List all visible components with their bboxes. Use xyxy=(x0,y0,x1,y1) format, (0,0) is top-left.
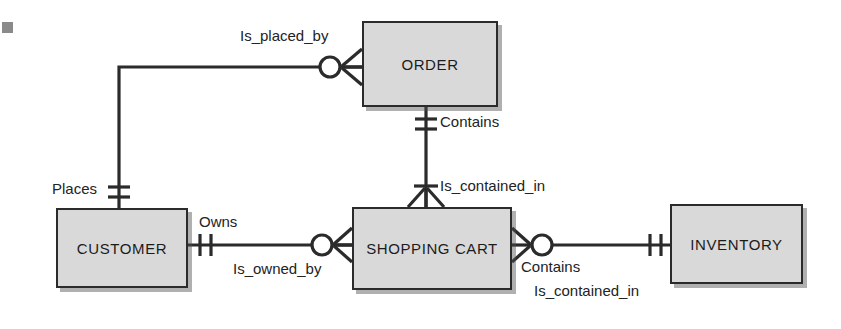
entity-inventory[interactable]: INVENTORY xyxy=(670,204,803,284)
relationship-label-is-placed-by: Is_placed_by xyxy=(240,28,328,43)
er-diagram-canvas: ORDER CUSTOMER SHOPPING CART INVENTORY I… xyxy=(0,0,841,329)
relationship-label-is-owned-by: Is_owned_by xyxy=(233,261,321,276)
relationship-label-contains-order-cart: Contains xyxy=(440,114,499,129)
entity-shopping-cart-label: SHOPPING CART xyxy=(366,240,498,257)
relationship-label-places: Places xyxy=(52,181,97,196)
entity-customer-label: CUSTOMER xyxy=(77,240,167,257)
entity-customer[interactable]: CUSTOMER xyxy=(56,208,188,288)
entity-shopping-cart[interactable]: SHOPPING CART xyxy=(352,207,512,290)
relationship-label-owns: Owns xyxy=(199,214,237,229)
cardinality-one-or-many-cart-top xyxy=(408,186,444,207)
entity-inventory-label: INVENTORY xyxy=(690,236,782,253)
connector-customer-order xyxy=(119,67,330,208)
relationship-label-contains-cart-inventory: Contains xyxy=(521,259,580,274)
relationship-label-is-contained-in-cart: Is_contained_in xyxy=(440,178,545,193)
cardinality-zero-or-many-cart-left xyxy=(312,228,352,262)
entity-order[interactable]: ORDER xyxy=(362,21,498,107)
cardinality-zero-or-many-cart-right xyxy=(512,228,552,262)
entity-order-label: ORDER xyxy=(401,56,458,73)
relationship-label-is-contained-in-inventory: Is_contained_in xyxy=(534,283,639,298)
cardinality-zero-or-many-order xyxy=(320,49,362,85)
